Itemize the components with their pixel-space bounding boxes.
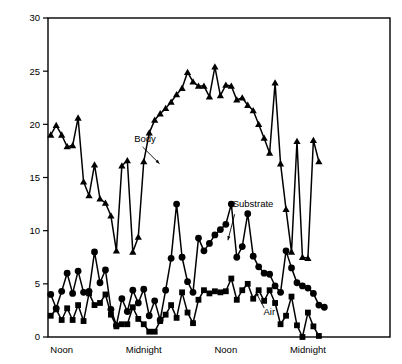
data-point-air (103, 292, 109, 298)
data-point-substrate (255, 263, 262, 270)
y-tick-label: 0 (35, 331, 40, 342)
annotation-arrowhead-substrate (227, 236, 230, 240)
data-point-air (190, 320, 196, 326)
data-point-body (140, 158, 147, 164)
data-point-substrate (195, 235, 202, 242)
y-tick-label: 5 (35, 278, 40, 289)
data-point-air (223, 288, 229, 294)
data-point-body (282, 206, 289, 212)
data-point-body (74, 114, 81, 120)
data-point-air (283, 313, 289, 319)
data-point-substrate (179, 254, 186, 261)
y-tick-label: 25 (29, 66, 40, 77)
data-point-substrate (129, 287, 136, 294)
y-tick-label: 30 (29, 12, 40, 23)
series-line-body (51, 67, 319, 258)
data-point-substrate (146, 312, 153, 319)
data-point-substrate (217, 226, 224, 233)
x-tick-label: Midnight (126, 344, 162, 355)
data-point-body (239, 94, 246, 100)
data-point-substrate (97, 279, 104, 286)
data-point-air (119, 321, 125, 327)
data-point-substrate (118, 295, 125, 302)
data-point-body (135, 233, 142, 239)
data-point-air (267, 287, 273, 293)
data-point-air (185, 310, 191, 316)
data-point-substrate (283, 247, 290, 254)
data-point-air (300, 334, 306, 340)
data-point-air (86, 291, 92, 297)
data-point-air (75, 302, 81, 308)
x-axis-ticks: NoonMidnightNoonMidnight (50, 344, 326, 355)
data-point-substrate (173, 201, 180, 208)
data-point-air (114, 323, 120, 329)
annotation-label-body: Body (134, 133, 156, 144)
annotation-label-substrate: Substrate (233, 198, 274, 209)
data-point-air (217, 289, 223, 295)
data-point-air (59, 317, 65, 323)
data-point-body (113, 247, 120, 253)
data-point-air (305, 310, 311, 316)
data-point-body (255, 121, 262, 127)
data-point-body (293, 138, 300, 144)
data-point-substrate (162, 287, 169, 294)
data-point-air (245, 281, 251, 287)
data-point-air (289, 294, 295, 300)
data-point-substrate (266, 271, 273, 278)
data-point-body (277, 160, 284, 166)
data-point-air (157, 318, 163, 324)
x-tick-label: Noon (214, 344, 237, 355)
data-point-body (217, 92, 224, 98)
data-point-body (124, 157, 131, 163)
plot-frame (48, 18, 390, 337)
data-point-substrate (222, 221, 229, 228)
data-point-air (234, 297, 240, 303)
data-point-body (310, 137, 317, 143)
data-point-substrate (272, 283, 279, 290)
data-point-air (92, 302, 98, 308)
data-point-substrate (151, 297, 158, 304)
data-point-substrate (75, 268, 82, 275)
data-point-air (310, 323, 316, 329)
data-point-body (261, 135, 268, 141)
data-point-substrate (244, 210, 251, 217)
data-point-air (48, 313, 54, 319)
x-tick-label: Noon (50, 344, 73, 355)
data-point-body (271, 79, 278, 85)
data-point-body (211, 63, 218, 69)
data-point-substrate (321, 304, 328, 311)
data-point-body (206, 93, 213, 99)
data-point-air (141, 321, 147, 327)
data-point-substrate (135, 300, 142, 307)
data-point-air (207, 291, 213, 297)
data-point-body (80, 178, 87, 184)
data-point-body (129, 248, 136, 254)
data-point-substrate (310, 290, 317, 297)
annotation-label-air: Air (263, 306, 275, 317)
data-point-air (212, 288, 218, 294)
data-point-substrate (288, 264, 295, 271)
data-point-substrate (91, 249, 98, 256)
data-point-body (189, 78, 196, 84)
data-point-body (178, 85, 185, 91)
data-point-air (152, 329, 158, 335)
y-tick-label: 20 (29, 119, 40, 130)
data-point-body (222, 81, 229, 87)
data-point-substrate (211, 232, 218, 239)
data-point-body (91, 161, 98, 167)
chart-plot-area: 051015202530 NoonMidnightNoonMidnight Bo… (0, 0, 402, 364)
x-tick-label: Midnight (290, 344, 326, 355)
data-point-air (81, 318, 87, 324)
data-point-air (163, 312, 169, 318)
data-point-body (58, 131, 65, 137)
data-point-air (174, 315, 180, 321)
data-point-substrate (140, 286, 147, 293)
data-point-air (130, 304, 136, 310)
data-point-substrate (190, 289, 197, 296)
data-point-air (179, 289, 185, 295)
data-point-air (64, 305, 70, 311)
data-point-air (135, 316, 141, 322)
data-point-body (85, 192, 92, 198)
y-axis-ticks: 051015202530 (29, 12, 48, 342)
data-point-body (53, 122, 60, 128)
